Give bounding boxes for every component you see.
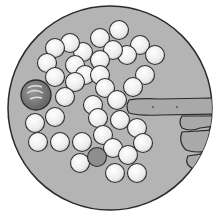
finger (127, 98, 214, 115)
marble (73, 133, 92, 152)
marble (110, 21, 129, 40)
marble (119, 146, 138, 165)
marble (56, 88, 75, 107)
marble (46, 108, 65, 127)
marble (71, 154, 90, 173)
marble (26, 114, 45, 133)
marble (89, 109, 108, 128)
shooter-marble (21, 80, 51, 110)
marble (51, 133, 70, 152)
marble (106, 164, 125, 183)
marble (128, 164, 147, 183)
marble (108, 91, 127, 110)
marble-scene (0, 0, 219, 216)
marble (46, 68, 65, 87)
dark-marble (88, 148, 107, 167)
marble (146, 46, 165, 65)
marble (111, 111, 130, 130)
marble (124, 78, 143, 97)
marble (29, 133, 48, 152)
